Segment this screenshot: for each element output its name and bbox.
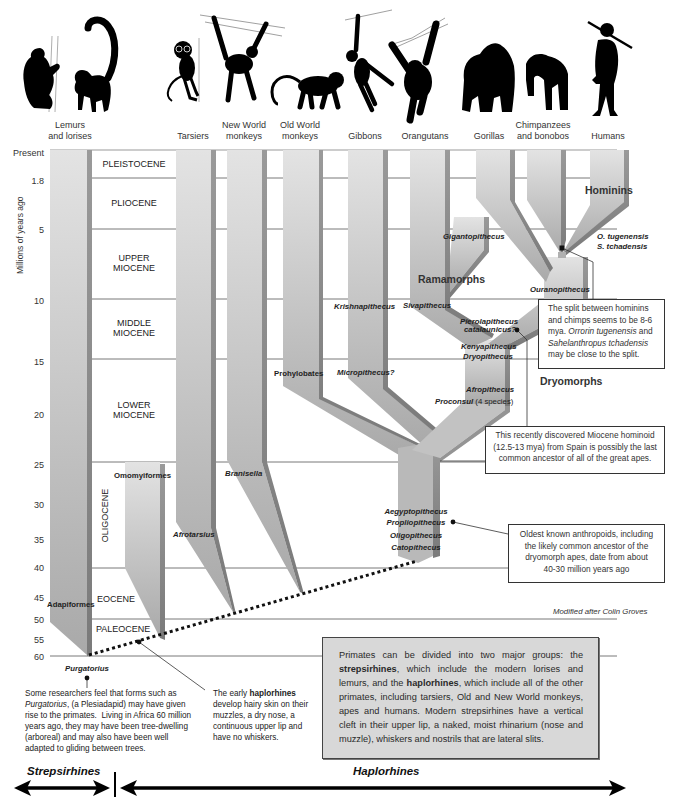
branch-gigantopithecus (450, 217, 489, 298)
epoch-oligocene: OLIGOCENE (101, 481, 110, 551)
group-dryomorphs: Dryomorphs (540, 376, 602, 387)
note-line: rise to the primates. Living in Africa 6… (25, 710, 191, 721)
taxon-oligopithecus: Oligopithecus (376, 532, 456, 540)
note-line: years ago, they may have been tree-dwell… (25, 721, 191, 732)
epoch-pleistocene: PLEISTOCENE (92, 159, 176, 169)
note-line: adapted to gliding between trees. (25, 743, 191, 754)
taxon-o-tugenensis: O. tugenensis (597, 233, 649, 241)
callout-line: (12.5-13 mya) from Spain is possibly the… (486, 442, 664, 454)
y-tick: 1.8 (0, 176, 44, 186)
header-line2: and lorises (22, 131, 118, 142)
note-text: , (a Plesiadapid) may have given (67, 700, 186, 709)
callout-oldest-anthropoids: Oldest known anthropoids, including the … (508, 524, 665, 583)
human-silhouette-icon (588, 22, 632, 116)
orangutan-silhouette-icon (390, 18, 448, 120)
taxon-dryopithecus: Dryopithecus (463, 353, 513, 361)
y-tick: 40 (0, 563, 44, 573)
y-tick: 10 (0, 296, 44, 306)
taxon-proconsul: Proconsul (4 species) (435, 398, 513, 406)
epoch-line: UPPER (92, 253, 176, 263)
tarsier-silhouette-icon (168, 38, 199, 102)
old-world-monkey-silhouette-icon (272, 72, 344, 107)
epoch-pliocene: PLIOCENE (92, 198, 176, 208)
epoch-lower-miocene: LOWER MIOCENE (92, 400, 176, 420)
taxon-kenyapithecus: Kenyapithecus (461, 343, 516, 351)
summary-line: Primates can be divided into two major g… (339, 648, 583, 662)
summary-line: apes and humans. Modern strepsirhines ha… (339, 704, 583, 718)
note-line: continuous upper lip and (213, 721, 308, 732)
callout-line: the likely common ancestor of the (509, 541, 664, 553)
callout-line: Oldest known anthropoids, including (509, 529, 664, 541)
taxon-proconsul-name: Proconsul (435, 397, 473, 406)
note-line: develop hairy skin on their (213, 699, 308, 710)
primate-phylogeny-figure: Lemurs and lorises Tarsiers New World mo… (0, 0, 675, 806)
summary-line: cleft in their upper lip, a naked, moist… (339, 718, 583, 732)
taxon-adapiformes: Adapiformes (47, 601, 95, 609)
y-tick: Present (0, 148, 44, 158)
chimpanzee-silhouette-icon (526, 54, 568, 110)
y-tick: 55 (0, 635, 44, 645)
header-line1 (560, 120, 656, 131)
note-line: Purgatorius, (a Plesiadapid) may have gi… (25, 699, 191, 710)
haplorhines-range-arrow (120, 780, 626, 796)
callout-line: common ancestor of all of the great apes… (486, 453, 664, 465)
taxon-micropithecus: Micropithecus? (337, 369, 395, 377)
taxon-aegyptopithecus: Aegyptopithecus (376, 508, 456, 516)
y-tick: 45 (0, 593, 44, 603)
taxon-s-tchadensis: S. tchadensis (597, 243, 647, 251)
y-axis-title: Millions of years ago (16, 190, 25, 280)
y-tick: 20 (0, 410, 44, 420)
epoch-eocene: EOCENE (97, 595, 135, 604)
note-line: Some researchers feel that forms such as (25, 688, 191, 699)
epoch-line: LOWER (92, 400, 176, 410)
callout-hominin-split: The split between hominins and chimps se… (538, 299, 665, 369)
loris-silhouette-icon (23, 36, 59, 112)
y-tick: 25 (0, 460, 44, 470)
taxon-catalaunicus: catalaunicus? (464, 326, 516, 334)
header-humans: Humans (560, 120, 656, 142)
epoch-paleocene: PALEOCENE (96, 625, 150, 634)
epoch-line: MIOCENE (92, 328, 176, 338)
taxon-gigantopithecus: Gigantopithecus (443, 233, 505, 241)
branch-lemurs (50, 150, 92, 656)
taxon-afrotarsius: Afrotarsius (173, 531, 215, 539)
callout-text: and (637, 326, 653, 336)
taxon-krishnapithecus: Krishnapithecus (334, 303, 395, 311)
note-text: The early (213, 689, 249, 698)
summary-text: , which include all of the other (459, 678, 583, 688)
callout-line: mya. Orrorin tugenensis and (548, 326, 664, 338)
taxon-afropithecus: Afropithecus (466, 386, 514, 394)
header-line2: Humans (560, 131, 656, 142)
summary-text: lemurs, and the (339, 678, 407, 688)
taxon-omomyiformes: Omomyiformes (114, 472, 171, 480)
callout-text: mya. (548, 326, 568, 336)
taxon-sivapithecus: Sivapithecus (403, 302, 451, 310)
epoch-line: MIOCENE (92, 263, 176, 273)
taxon-branisella: Branisella (225, 470, 262, 478)
y-tick: 60 (0, 652, 44, 662)
note-purgatorius: Some researchers feel that forms such as… (25, 688, 191, 754)
callout-line: The split between hominins (548, 303, 664, 315)
strepsirhines-range-arrow (14, 780, 110, 796)
callout-miocene-hominoid: This recently discovered Miocene hominoi… (485, 426, 665, 474)
group-hominins: Hominins (585, 185, 633, 196)
taxon-purgatorius: Purgatorius (65, 665, 109, 673)
summary-line: strepsirhines, which include the modern … (339, 662, 583, 676)
note-line: muzzles, a dry nose, a (213, 710, 308, 721)
epoch-line: MIDDLE (92, 318, 176, 328)
callout-species-name: Orrorin tugenensis (568, 326, 636, 336)
summary-line: primates, including tarsiers, Old and Ne… (339, 690, 583, 704)
callout-line: and chimps seems to be 8-6 (548, 315, 664, 327)
summary-term: strepsirhines (339, 664, 397, 674)
header-line1: Lemurs (22, 120, 118, 131)
note-line: have no whiskers. (213, 732, 308, 743)
taxon-ouranopithecus: Ouranopithecus (530, 286, 590, 294)
taxon-catopithecus: Catopithecus (376, 544, 456, 552)
gorilla-silhouette-icon (462, 43, 515, 112)
summary-box: Primates can be divided into two major g… (322, 637, 599, 759)
callout-line: may be close to the split. (548, 349, 664, 361)
header-lemurs-and-lorises: Lemurs and lorises (22, 120, 118, 142)
lemur-silhouette-icon (75, 20, 115, 112)
callout-species-name: Sahelanthropus tchadensis (548, 338, 648, 348)
y-tick: 5 (0, 225, 44, 235)
